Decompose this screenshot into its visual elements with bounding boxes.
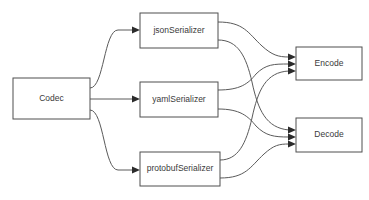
edge-group-json-outputs [218, 22, 296, 133]
edge-json-to-encode [218, 22, 289, 57]
edge-protobuf-to-decode [220, 144, 289, 178]
arrowhead-yaml-to-encode [288, 61, 296, 68]
edge-protobuf-to-encode [220, 71, 289, 160]
arrowhead-json-to-decode [288, 127, 296, 134]
node-decode[interactable]: Decode [296, 118, 362, 152]
node-protobuf-serializer[interactable]: protobufSerializer [140, 152, 220, 186]
edge-codec-to-protobuf [90, 110, 133, 170]
arrowhead-yaml-to-decode [288, 134, 296, 141]
edge-json-to-decode [218, 40, 289, 130]
node-protobuf-serializer-label: protobufSerializer [147, 163, 214, 173]
node-encode[interactable]: Encode [296, 47, 362, 80]
arrowhead-codec-to-json [132, 27, 140, 34]
edge-group-protobuf-outputs [220, 68, 296, 178]
arrowhead-codec-to-yaml [132, 96, 140, 103]
edge-codec-to-json [90, 30, 133, 88]
node-decode-label: Decode [314, 129, 344, 139]
node-codec-label: Codec [39, 93, 64, 103]
arrowhead-json-to-encode [288, 54, 296, 61]
node-json-serializer-label: jsonSerializer [152, 25, 204, 35]
node-yaml-serializer[interactable]: yamlSerializer [140, 82, 218, 117]
edge-group-codec-to-serializers [90, 27, 140, 174]
arrowhead-codec-to-protobuf [132, 167, 140, 174]
diagram-canvas: Codec jsonSerializer yamlSerializer prot… [0, 0, 369, 200]
node-yaml-serializer-label: yamlSerializer [152, 94, 206, 104]
arrowhead-protobuf-to-decode [288, 141, 296, 148]
node-codec[interactable]: Codec [13, 78, 90, 119]
node-json-serializer[interactable]: jsonSerializer [140, 13, 218, 48]
diagram-svg: Codec jsonSerializer yamlSerializer prot… [0, 0, 369, 200]
edge-yaml-to-encode [218, 64, 289, 90]
node-encode-label: Encode [315, 58, 344, 68]
arrowhead-protobuf-to-encode [288, 68, 296, 75]
